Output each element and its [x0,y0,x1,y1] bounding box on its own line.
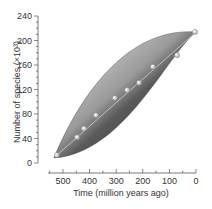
species-chart: 040801201602002405004003002001000 Time (… [0,0,212,209]
x-tick-label: 200 [135,176,150,186]
data-point [93,113,98,118]
data-point [175,53,180,58]
data-point [192,29,197,34]
data-point [136,80,141,85]
x-tick-label: 300 [109,176,124,186]
data-point [125,88,130,93]
x-tick-label: 100 [162,176,177,186]
x-tick-label: 400 [82,176,97,186]
y-tick-label: 40 [22,134,32,144]
data-point [74,135,79,140]
x-axis-title: Time (million years ago) [73,188,169,198]
data-point [112,95,117,100]
y-axis-title: Number of species (×10³) [12,41,22,143]
x-tick-label: 0 [193,176,198,186]
y-tick-label: 80 [22,109,32,119]
y-tick-label: 0 [27,158,32,168]
data-point [54,152,59,157]
y-tick-label: 240 [17,11,32,21]
data-point [150,64,155,69]
data-point [81,126,86,131]
x-tick-label: 500 [55,176,70,186]
